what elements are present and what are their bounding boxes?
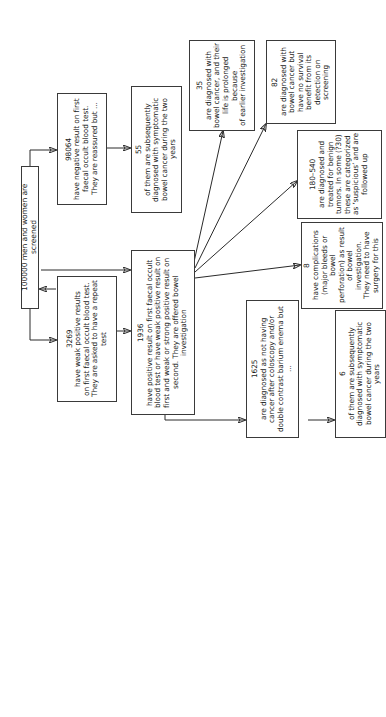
edge-positive-to-not-cancer	[165, 415, 245, 420]
edge-root-to-negative	[30, 150, 56, 166]
node-no-benefit: 82 are diagnosed with bowel cancer but h…	[266, 40, 336, 124]
node-no-benefit-text: are diagnosed with bowel cancer but have…	[280, 43, 332, 121]
edge-positive-to-benign	[195, 181, 297, 272]
node-weak-positive: 3269 have weak positive results on first…	[57, 276, 117, 402]
node-negative-text: have negative result on first faecal occ…	[73, 98, 99, 200]
node-not-cancer-later: 6 of them are subsequently diagnosed wit…	[335, 310, 386, 438]
node-benign-text: are diagnosed and treated for benign tum…	[318, 134, 370, 216]
node-complications-text: have complications (major bleeds or bowe…	[312, 225, 381, 306]
node-weak-positive-text: have weak positive results on first faec…	[74, 281, 108, 398]
node-root: 100000 men and women are screened	[21, 166, 39, 309]
node-negative-cancer-text: of them are subsequently diagnosed with …	[144, 89, 178, 210]
node-negative-cancer: 55 of them are subsequently diagnosed wi…	[131, 86, 182, 213]
node-not-cancer-text: are diagnosed as not having cancer after…	[260, 303, 294, 435]
node-complications: 8 have complications (major bleeds or bo…	[301, 222, 383, 309]
node-positive-text: have positive result on first faecal occ…	[146, 253, 189, 412]
node-not-cancer-later-text: of them are subsequently diagnosed with …	[348, 313, 382, 435]
edge-root-to-weak-positive	[30, 308, 56, 340]
edge-positive-to-no-benefit	[195, 124, 266, 268]
node-prolonged: 35 are diagnosed with bowel cancer, and …	[189, 40, 255, 131]
edge-positive-to-prolonged	[194, 131, 223, 262]
node-positive: 1936 have positive result on first faeca…	[131, 250, 195, 415]
edge-positive-to-complications	[195, 265, 300, 278]
node-prolonged-text: are diagnosed with bowel cancer, and the…	[205, 43, 248, 128]
node-negative: 98064 have negative result on first faec…	[57, 93, 107, 205]
node-not-cancer: 1625 are diagnosed as not having cancer …	[246, 300, 299, 438]
node-benign: 180–540 are diagnosed and treated for be…	[297, 130, 382, 219]
node-root-label: 100000 men and women are screened	[21, 169, 38, 306]
